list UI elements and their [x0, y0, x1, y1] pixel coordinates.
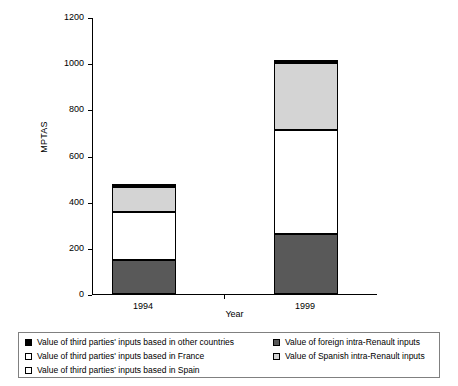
y-axis-tick-label: 0 [79, 289, 84, 299]
chart-legend: Value of third parties' inputs based in … [18, 332, 440, 378]
x-axis-tick-mark [224, 295, 225, 299]
legend-swatch-icon [25, 367, 32, 374]
y-axis-ticks: 020040060080010001200 [0, 18, 92, 295]
legend-swatch-icon [25, 339, 32, 346]
legend-item[interactable]: Value of third parties' inputs based in … [25, 350, 275, 363]
y-axis-tick-label: 200 [69, 243, 84, 253]
legend-swatch-icon [273, 339, 280, 346]
legend-item[interactable]: Value of foreign intra-Renault inputs [273, 336, 441, 349]
legend-item-label: Value of Spanish intra-Renault inputs [285, 351, 425, 362]
stacked-bar-chart: MPTAS 020040060080010001200 19941999 Yea… [0, 0, 458, 386]
legend-item-label: Value of third parties' inputs based in … [37, 365, 200, 376]
legend-item-label: Value of third parties' inputs based in … [37, 351, 204, 362]
y-axis-tick-label: 400 [69, 197, 84, 207]
bar-segment [112, 260, 176, 294]
plot-area [92, 18, 377, 295]
legend-item[interactable]: Value of third parties' inputs based in … [25, 336, 275, 349]
bar-1994 [112, 184, 176, 294]
legend-item[interactable]: Value of third parties' inputs based in … [25, 364, 275, 377]
y-axis-tick-label: 1200 [64, 12, 84, 22]
bar-segment [112, 187, 176, 212]
bar-segment [112, 184, 176, 187]
bar-segment [274, 63, 338, 130]
bar-segment [274, 60, 338, 63]
bar-segment [112, 212, 176, 260]
y-axis-tick-label: 600 [69, 151, 84, 161]
legend-column-left: Value of third parties' inputs based in … [25, 336, 275, 378]
bar-segment [274, 130, 338, 234]
legend-swatch-icon [25, 353, 32, 360]
y-axis-tick-label: 1000 [64, 58, 84, 68]
legend-item-label: Value of foreign intra-Renault inputs [285, 337, 420, 348]
legend-item-label: Value of third parties' inputs based in … [37, 337, 234, 348]
legend-column-right: Value of foreign intra-Renault inputsVal… [273, 336, 441, 364]
y-axis-tick-label: 800 [69, 104, 84, 114]
legend-swatch-icon [273, 353, 280, 360]
x-axis-title: Year [92, 309, 377, 319]
bar-1999 [274, 60, 338, 294]
legend-item[interactable]: Value of Spanish intra-Renault inputs [273, 350, 441, 363]
bar-segment [274, 234, 338, 294]
